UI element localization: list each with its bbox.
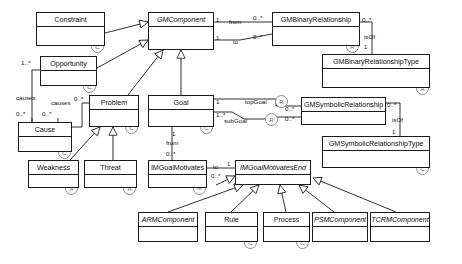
class-attributes-tcrmcomponent: [371, 227, 429, 255]
edge-label-mult-imgm-many: 0..*: [166, 151, 175, 157]
class-attributes-weakness: [29, 175, 78, 201]
edge-label-mult-to-many: 0..*: [253, 34, 262, 40]
edge-label-role-from: from: [229, 19, 241, 25]
uml-class-diagram: CConstraintGMComponentRGMBinaryRelations…: [0, 0, 462, 264]
class-attributes-gmcomponent: [149, 27, 213, 63]
class-header-gmbinaryrelationshiptype: GMBinaryRelationshipType: [323, 55, 429, 69]
class-header-imgoalmotivates: IMGoalMotivates: [149, 161, 206, 175]
class-box-gmcomponent[interactable]: GMComponent: [148, 12, 214, 50]
class-name-gmbinaryrelationship: GMBinaryRelationship: [281, 16, 352, 23]
class-box-armcomponent[interactable]: ARMComponent: [138, 212, 198, 242]
class-box-tcrmcomponent[interactable]: TCRMComponent: [370, 212, 430, 242]
edge-label-mult-to-end-many: 0..*: [211, 173, 220, 179]
class-header-tcrmcomponent: TCRMComponent: [371, 213, 429, 227]
edge-label-role-to: to: [233, 39, 238, 45]
class-name-threat: Threat: [100, 164, 120, 171]
class-header-opportunity: Opportunity: [41, 57, 96, 71]
class-header-process: Process: [264, 213, 309, 227]
class-box-psmcomponent[interactable]: PSMComponent: [312, 212, 368, 242]
edge-label-mult-from-many: 0..*: [253, 15, 262, 21]
edge-label-mult-goal-1: 1: [216, 99, 219, 105]
class-name-problem: Problem: [101, 99, 127, 106]
edge-label-mult-topgoal-many: 0..*: [285, 106, 294, 112]
class-attributes-constraint: [37, 27, 104, 59]
class-box-imgoalmotivatesend[interactable]: IMGoalMotivatesEnd: [235, 160, 311, 185]
class-header-constraint: Constraint: [37, 13, 104, 27]
class-name-goal: Goal: [174, 99, 189, 106]
class-name-armcomponent: ARMComponent: [142, 216, 195, 223]
class-attributes-imgoalmotivatesend: [236, 175, 310, 198]
class-box-problem[interactable]: Problem: [89, 95, 139, 127]
relationship-badge-topgoal-r: R: [275, 95, 288, 108]
class-name-imgoalmotivates: IMGoalMotivates: [151, 164, 204, 171]
class-attributes-rule: [206, 227, 257, 255]
edge-label-role-causes-2: causes: [51, 100, 71, 106]
class-box-goal[interactable]: Goal: [148, 95, 214, 127]
class-name-gmsymbolicrelationship: GMSymbolicRelationship: [304, 101, 383, 108]
class-header-armcomponent: ARMComponent: [139, 213, 197, 227]
edge-label-mult-isof-sym-1: 1: [392, 129, 395, 135]
class-header-threat: Threat: [85, 161, 136, 175]
edge-label-role-isof-binary: isOf: [364, 34, 375, 40]
class-attributes-psmcomponent: [313, 227, 367, 255]
class-box-constraint[interactable]: Constraint: [36, 12, 105, 46]
class-box-gmsymbolicrelationshiptype[interactable]: GMSymbolicRelationshipType: [322, 136, 430, 168]
class-name-process: Process: [274, 216, 300, 223]
class-box-process[interactable]: Process: [263, 212, 310, 242]
class-name-opportunity: Opportunity: [50, 60, 87, 67]
class-box-gmsymbolicrelationship[interactable]: GMSymbolicRelationship: [301, 97, 386, 125]
edge-label-mult-end-1: 1: [227, 161, 230, 167]
class-attributes-gmsymbolicrelationshiptype: [323, 151, 429, 181]
class-header-goal: Goal: [149, 96, 213, 110]
edge-label-role-subgoal: subGoal: [224, 118, 247, 124]
class-header-gmcomponent: GMComponent: [149, 13, 213, 27]
edge-label-mult-gmc-to-1: 1: [216, 35, 219, 41]
edge-label-role-causes-1: causes: [16, 95, 36, 101]
class-box-imgoalmotivates[interactable]: IMGoalMotivates: [148, 160, 207, 188]
class-box-rule[interactable]: Rule: [205, 212, 258, 242]
class-header-rule: Rule: [206, 213, 257, 227]
class-name-rule: Rule: [224, 216, 239, 223]
class-attributes-process: [264, 227, 309, 255]
class-attributes-gmsymbolicrelationship: [302, 112, 385, 138]
edge-label-role-isof-sym: isOf: [392, 117, 403, 123]
edge-label-mult-isof-1: 1: [364, 44, 367, 50]
class-header-gmsymbolicrelationship: GMSymbolicRelationship: [302, 98, 385, 112]
edge-label-mult-gmbr-many: 0..*: [362, 17, 371, 23]
class-name-tcrmcomponent: TCRMComponent: [371, 216, 428, 223]
edge-label-role-to-end: to: [213, 164, 218, 170]
class-attributes-problem: [90, 110, 138, 140]
class-box-weakness[interactable]: Weakness: [28, 160, 79, 188]
class-box-cause[interactable]: Cause: [18, 122, 72, 152]
class-name-gmsymbolicrelationshiptype: GMSymbolicRelationshipType: [329, 140, 424, 147]
edge-gmcomponent-to-gmbr: [214, 34, 272, 40]
class-box-gmbinaryrelationship[interactable]: GMBinaryRelationship: [272, 12, 360, 46]
class-header-cause: Cause: [19, 123, 71, 137]
class-name-gmbinaryrelationshiptype: GMBinaryRelationshipType: [333, 58, 419, 65]
edge-cause-causes-problem: [72, 103, 89, 127]
class-header-gmbinaryrelationship: GMBinaryRelationship: [273, 13, 359, 27]
edge-label-mult-goal-from-1: 1: [172, 131, 175, 137]
relationship-badge-subgoal-r: R: [265, 113, 278, 126]
class-attributes-threat: [85, 175, 136, 201]
class-name-constraint: Constraint: [54, 16, 86, 23]
edge-label-mult-subgoal-many: 0..*: [285, 116, 294, 122]
edge-constraint-gmcomponent: [105, 22, 148, 33]
class-box-gmbinaryrelationshiptype[interactable]: GMBinaryRelationshipType: [322, 54, 430, 88]
class-name-imgoalmotivatesend: IMGoalMotivatesEnd: [240, 164, 306, 171]
edge-label-role-topgoal: topGoal: [245, 99, 267, 105]
edge-label-mult-opp-many: 1..*: [21, 60, 30, 66]
class-box-threat[interactable]: Threat: [84, 160, 137, 188]
class-header-imgoalmotivatesend: IMGoalMotivatesEnd: [236, 161, 310, 175]
class-name-cause: Cause: [35, 126, 56, 133]
class-header-problem: Problem: [90, 96, 138, 110]
class-attributes-opportunity: [41, 71, 96, 99]
edge-label-mult-gmc-from-1: 1: [216, 17, 219, 23]
class-header-weakness: Weakness: [29, 161, 78, 175]
class-box-opportunity[interactable]: Opportunity: [40, 56, 97, 86]
edge-label-mult-cause-r: 0..*: [42, 111, 51, 117]
class-name-psmcomponent: PSMComponent: [314, 216, 366, 223]
edge-label-mult-prob-many: 0..*: [74, 96, 83, 102]
class-header-psmcomponent: PSMComponent: [313, 213, 367, 227]
class-attributes-imgoalmotivates: [149, 175, 206, 201]
